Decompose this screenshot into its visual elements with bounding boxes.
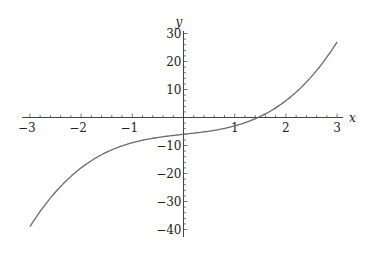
x-axis-label: x xyxy=(349,111,356,125)
x-tick-label: −3 xyxy=(18,121,36,135)
y-tick-label: −30 xyxy=(156,195,181,209)
y-axis-label: y xyxy=(175,15,183,29)
y-tick-label: 10 xyxy=(166,83,181,97)
y-tick-label: −40 xyxy=(156,223,181,237)
x-tick-label: 2 xyxy=(282,121,290,135)
x-tick-label: 3 xyxy=(333,121,341,135)
x-tick-label: −1 xyxy=(120,121,138,135)
y-tick-label: 30 xyxy=(166,27,181,41)
x-tick-label: −2 xyxy=(69,121,87,135)
y-tick-label: −10 xyxy=(156,139,181,153)
y-tick-label: −20 xyxy=(156,167,181,181)
x-tick-labels: −3−2−1123 xyxy=(18,121,341,135)
y-tick-labels: 302010−10−20−30−40 xyxy=(156,27,181,237)
cubic-function-plot: −3−2−1123 302010−10−20−30−40 x y xyxy=(0,0,374,253)
y-tick-label: 20 xyxy=(166,55,181,69)
x-tick-label: 1 xyxy=(231,121,239,135)
